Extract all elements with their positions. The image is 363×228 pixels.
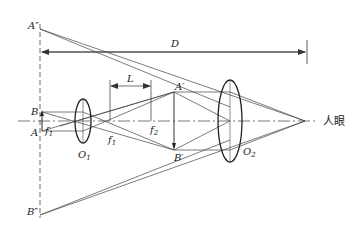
label-A-double-prime: A″ (27, 20, 39, 31)
ray (40, 29, 230, 107)
label-f2: f2 (149, 124, 159, 137)
label-L: L (126, 73, 134, 84)
label-O2: O2 (243, 146, 256, 159)
label-B-prime: B′ (173, 152, 184, 163)
label-A-prime: A′ (174, 81, 185, 92)
ray (174, 92, 230, 121)
label-O1: O1 (78, 149, 91, 162)
optical-diagram: A″ B″ B A A′ B′ D L f1 f1 f2 O1 O2 人眼 (0, 0, 363, 228)
label-f1-left: f1 (44, 125, 53, 138)
label-eye: 人眼 (323, 115, 345, 128)
label-A: A (30, 127, 38, 138)
ray (174, 121, 230, 150)
label-B: B (30, 106, 38, 117)
ray (83, 92, 174, 131)
ray (40, 121, 305, 215)
label-f1-right: f1 (107, 134, 116, 147)
label-D: D (170, 38, 179, 49)
ray (60, 92, 174, 126)
ray (83, 112, 174, 150)
label-B-double-prime: B″ (26, 206, 38, 217)
ray (40, 140, 230, 215)
